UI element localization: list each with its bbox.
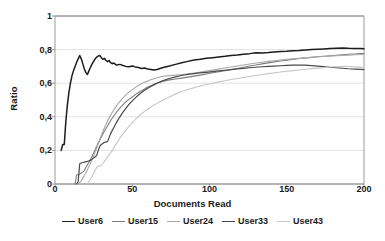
legend-line-swatch-icon — [62, 221, 75, 222]
chart-legend: User6User15User24User33User43 — [0, 216, 385, 226]
legend-line-swatch-icon — [167, 221, 180, 222]
x-tick-label: 150 — [279, 184, 294, 194]
x-tick-label: 50 — [127, 184, 137, 194]
legend-label: User33 — [238, 216, 268, 226]
legend-label: User15 — [128, 216, 158, 226]
chart-figure: Ratio 00,20,40,60,81 050100150200 Docume… — [0, 0, 385, 241]
legend-line-swatch-icon — [222, 221, 235, 222]
legend-label: User6 — [78, 216, 103, 226]
legend-label: User43 — [293, 216, 323, 226]
x-axis-tick-labels: 050100150200 — [0, 184, 385, 198]
series-line-user24 — [78, 54, 364, 184]
series-line-user43 — [87, 66, 364, 184]
series-line-user6 — [61, 48, 364, 150]
legend-line-swatch-icon — [277, 221, 290, 222]
x-axis-label: Documents Read — [0, 198, 385, 209]
legend-item-user24[interactable]: User24 — [167, 216, 213, 226]
legend-line-swatch-icon — [112, 221, 125, 222]
x-axis-label-text: Documents Read — [154, 198, 232, 209]
x-tick-label: 100 — [202, 184, 217, 194]
legend-label: User24 — [183, 216, 213, 226]
legend-item-user6[interactable]: User6 — [62, 216, 103, 226]
x-tick-label: 200 — [356, 184, 371, 194]
x-tick-label: 0 — [52, 184, 57, 194]
legend-item-user15[interactable]: User15 — [112, 216, 158, 226]
legend-item-user43[interactable]: User43 — [277, 216, 323, 226]
legend-item-user33[interactable]: User33 — [222, 216, 268, 226]
